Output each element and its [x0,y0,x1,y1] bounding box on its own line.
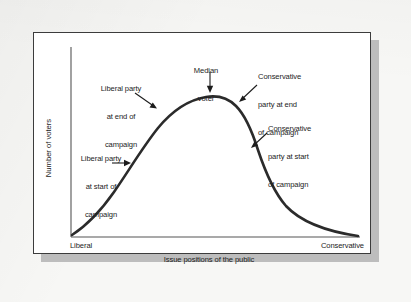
annotation-liberal-party-start: Liberal party at start of campaign [70,136,132,237]
annotation-line: party at start [268,152,330,161]
y-axis-title: Number of voters [44,92,53,204]
annotation-line: Conservative [268,124,330,133]
x-axis-tick-conservative: Conservative [300,241,364,250]
x-axis-title: Issue positions of the public [124,255,294,264]
annotation-line: Liberal party [70,154,132,163]
annotation-line: of campaign [268,180,330,189]
annotation-line: Liberal party [88,84,154,93]
annotation-conservative-party-start: Conservative party at start of campaign [268,106,330,207]
annotation-line: Median [178,66,234,75]
annotation-line: campaign [70,210,132,219]
annotation-line: at start of [70,182,132,191]
conservative-party-end-arrow [239,85,257,102]
annotation-median-voter: Median voter [178,48,234,122]
x-axis-tick-liberal: Liberal [70,241,130,250]
annotation-line: voter [178,94,234,103]
annotation-line: Conservative [258,72,320,81]
figure-root: Liberal party at end of campaign Median … [0,0,411,302]
annotation-line: at end of [88,112,154,121]
